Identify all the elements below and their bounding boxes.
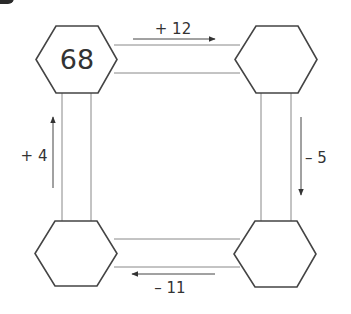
node-value-top-left: 68 — [60, 44, 94, 75]
operation-bottom-label: – 11 — [154, 279, 185, 297]
number-chain-diagram: 68 + 12 – 5 – 11 + 4 — [0, 0, 351, 314]
hexagon-bottom-left[interactable] — [35, 221, 117, 286]
hexagon-bottom-right[interactable] — [234, 221, 316, 287]
operation-left-label: + 4 — [21, 147, 48, 165]
operation-right-label: – 5 — [305, 149, 327, 167]
operation-top-label: + 12 — [155, 20, 191, 38]
hexagon-top-right[interactable] — [235, 26, 317, 93]
